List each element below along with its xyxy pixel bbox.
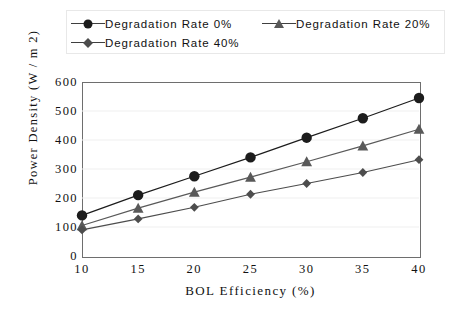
y-axis-tick-labels: 0100200300400500600 xyxy=(36,0,78,324)
legend-item-degradation-rate-40[interactable]: Degradation Rate 40% xyxy=(71,33,239,52)
chart-legend: Degradation Rate 0% Degradation Rate 20%… xyxy=(66,10,445,54)
series-2 xyxy=(78,155,424,234)
x-axis-tick-labels: 10152025303540 xyxy=(82,262,419,280)
legend-row-2: Degradation Rate 40% xyxy=(71,33,440,52)
x-tick-label: 10 xyxy=(74,262,90,277)
x-tick-label: 25 xyxy=(243,262,259,277)
y-tick-label: 300 xyxy=(42,163,78,175)
data-point-circle xyxy=(301,132,311,142)
x-tick-label: 35 xyxy=(355,262,371,277)
legend-row-1: Degradation Rate 0% Degradation Rate 20% xyxy=(71,14,440,33)
data-point-circle xyxy=(358,113,368,123)
data-point-circle xyxy=(77,210,87,220)
legend-label-0: Degradation Rate 0% xyxy=(105,17,232,31)
data-point-triangle xyxy=(245,172,256,182)
data-point-diamond xyxy=(415,155,424,164)
data-point-circle xyxy=(414,93,424,103)
data-point-diamond xyxy=(302,179,311,188)
x-tick-label: 30 xyxy=(299,262,315,277)
data-point-diamond xyxy=(134,214,143,223)
data-point-diamond xyxy=(246,190,255,199)
x-tick-label: 15 xyxy=(130,262,146,277)
x-axis-title: BOL Efficiency (%) xyxy=(82,283,419,299)
chart-container: Degradation Rate 0% Degradation Rate 20%… xyxy=(0,0,459,324)
plot-svg xyxy=(82,82,419,256)
legend-item-degradation-rate-20[interactable]: Degradation Rate 20% xyxy=(262,14,430,33)
data-point-triangle xyxy=(357,140,368,150)
y-tick-label: 400 xyxy=(42,134,78,146)
data-point-circle xyxy=(189,171,199,181)
legend-marker-triangle-icon xyxy=(262,17,296,31)
legend-item-degradation-rate-0[interactable]: Degradation Rate 0% xyxy=(71,14,232,33)
y-tick-label: 200 xyxy=(42,192,78,204)
data-point-triangle xyxy=(414,124,425,134)
y-tick-label: 100 xyxy=(42,221,78,233)
x-tick-label: 40 xyxy=(411,262,427,277)
series-0 xyxy=(77,93,424,221)
x-tick-label: 20 xyxy=(187,262,203,277)
data-point-circle xyxy=(133,190,143,200)
legend-label-1: Degradation Rate 20% xyxy=(296,17,430,31)
data-point-circle xyxy=(245,152,255,162)
y-tick-label: 600 xyxy=(42,76,78,88)
y-tick-label: 0 xyxy=(42,250,78,262)
y-tick-label: 500 xyxy=(42,105,78,117)
data-point-triangle xyxy=(301,156,312,166)
legend-label-2: Degradation Rate 40% xyxy=(105,36,239,50)
data-point-triangle xyxy=(133,203,144,213)
data-point-diamond xyxy=(190,203,199,212)
